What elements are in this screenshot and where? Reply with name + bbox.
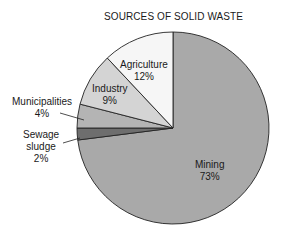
label-sewage-name-2: sludge [23,141,59,153]
label-mining-name: Mining [195,159,224,171]
label-agriculture-name: Agriculture [120,59,168,71]
label-industry: Industry 9% [92,83,128,107]
label-municipalities-name: Municipalities [12,96,72,108]
label-mining-pct: 73% [195,171,224,183]
label-sewage-pct: 2% [23,153,59,165]
label-sewage-sludge: Sewage sludge 2% [23,129,59,165]
label-municipalities-pct: 4% [12,108,72,120]
label-municipalities: Municipalities 4% [12,96,72,120]
label-mining: Mining 73% [195,159,224,183]
label-sewage-name-1: Sewage [23,129,59,141]
pie-chart [0,0,285,242]
label-agriculture-pct: 12% [120,71,168,83]
label-agriculture: Agriculture 12% [120,59,168,83]
label-industry-pct: 9% [92,95,128,107]
label-industry-name: Industry [92,83,128,95]
